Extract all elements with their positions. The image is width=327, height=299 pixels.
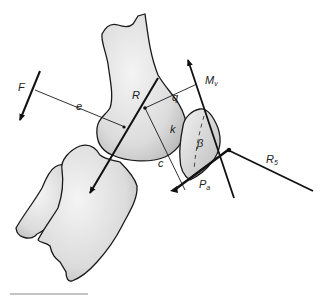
force-F: [20, 71, 40, 120]
force-Pa-end: [170, 186, 178, 193]
label-R5-main: R: [266, 153, 274, 165]
label-F: F: [18, 82, 25, 93]
label-Mv: Mv: [205, 75, 218, 87]
label-beta: β: [197, 138, 203, 149]
femur: [97, 14, 186, 161]
label-Mv-sub: v: [214, 80, 218, 87]
label-q: q: [172, 92, 178, 103]
label-k: k: [170, 124, 176, 135]
label-e: e: [76, 101, 82, 112]
tendon-junction: [227, 148, 231, 152]
label-Mv-main: M: [205, 74, 214, 86]
label-R: R: [132, 90, 140, 101]
label-R5-sub: 5: [274, 159, 278, 166]
label-R5: R5: [266, 154, 278, 166]
label-c: c: [158, 158, 164, 169]
label-Pa: Pa: [199, 179, 210, 191]
joint-point: [122, 125, 125, 128]
label-Pa-sub: a: [206, 184, 210, 191]
knee-diagram: [0, 0, 327, 299]
